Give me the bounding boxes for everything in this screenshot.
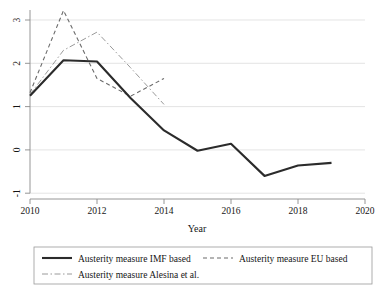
y-axis: 3 2 1 0 -1 [12,10,30,197]
chart-container: 3 2 1 0 -1 2010 2012 2014 2016 2018 2020… [0,0,376,287]
x-axis: 2010 2012 2014 2016 2018 2020 Year [21,199,375,234]
gridlines [30,20,365,193]
x-tick-label-2016: 2016 [222,206,241,216]
x-axis-title: Year [188,223,207,234]
x-tick-label-2018: 2018 [289,206,308,216]
y-tick-label-minus1: -1 [12,189,22,197]
x-tick-label-2010: 2010 [21,206,40,216]
line-chart: 3 2 1 0 -1 2010 2012 2014 2016 2018 2020… [0,0,376,287]
x-tick-label-2014: 2014 [155,206,174,216]
x-tick-label-2020: 2020 [356,206,375,216]
legend-label-eu: Austerity measure EU based [239,254,348,264]
y-tick-label-1: 1 [12,104,22,109]
series-group [30,10,332,175]
legend-label-alesina: Austerity measure Alesina et al. [78,270,199,280]
legend-label-imf: Austerity measure IMF based [78,254,191,264]
series-line-imf [30,60,332,176]
series-line-eu [30,10,164,96]
x-tick-label-2012: 2012 [88,206,107,216]
legend: Austerity measure IMF based Austerity me… [34,247,372,284]
series-line-alesina [30,32,164,104]
y-tick-label-0: 0 [12,147,22,152]
y-tick-label-2: 2 [12,61,22,66]
y-tick-label-3: 3 [12,17,22,22]
